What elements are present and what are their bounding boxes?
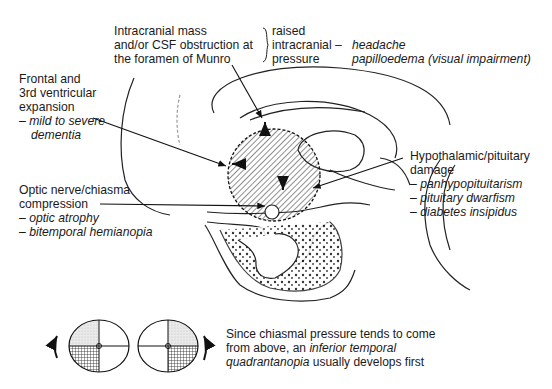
label-hypothalamic-damage: Hypothalamic/pituitary damage – panhypop… [410, 149, 530, 219]
label-frontal-expansion: Frontal and 3rd ventricular expansion – … [19, 72, 105, 142]
grouping-brace [263, 28, 268, 62]
caption-quadrantanopia: Since chiasmal pressure tends to come fr… [226, 327, 435, 369]
visual-field-left [55, 318, 129, 376]
visual-field-right [138, 318, 206, 376]
label-intracranial-mass: Intracranial mass and/or CSF obstruction… [114, 24, 253, 66]
label-raised-icp-effects: headache papilloedema (visual impairment… [352, 38, 531, 66]
label-raised-icp: raised intracranial – pressure [272, 24, 342, 66]
label-optic-compression: Optic nerve/chiasma compression – optic … [19, 183, 152, 239]
